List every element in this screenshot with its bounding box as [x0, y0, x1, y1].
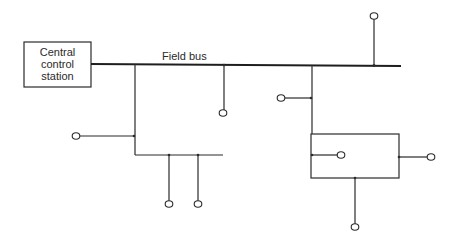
device-node-sub-bus-2	[194, 201, 202, 207]
central-station-label-line-1: Central	[40, 46, 75, 58]
device-node-subnet-inner	[337, 152, 345, 158]
left-branch	[72, 64, 223, 207]
junction-dot	[398, 156, 401, 159]
field-bus-line	[91, 64, 401, 66]
junction-dot	[133, 135, 136, 138]
bus-drop	[219, 64, 227, 117]
central-station-label-line-3: station	[41, 70, 73, 82]
device-node-top-right	[370, 13, 378, 19]
device-node-bus-drop	[219, 110, 227, 116]
device-node-sub-bus-1	[165, 201, 173, 207]
device-node-subnet-right	[427, 154, 435, 160]
device-node-left-stub	[72, 133, 80, 139]
junction-dot	[373, 64, 376, 67]
subnet-box	[311, 134, 399, 178]
junction-dot	[311, 154, 314, 157]
central-control-station: Central control station	[24, 42, 91, 87]
device-node-right-stub	[277, 95, 285, 101]
junction-dot	[197, 154, 200, 157]
junction-dot	[310, 97, 313, 100]
junction-dot	[223, 64, 226, 67]
field-bus-label: Field bus	[162, 50, 207, 62]
junction-dot	[168, 154, 171, 157]
field-bus: Field bus	[91, 50, 401, 66]
junction-dot	[354, 177, 357, 180]
top-right-riser	[370, 13, 378, 67]
field-bus-diagram: Central control station Field bus	[0, 0, 453, 248]
central-station-label-line-2: control	[41, 58, 74, 70]
device-node-subnet-bottom	[351, 224, 359, 230]
right-branch	[277, 65, 435, 230]
